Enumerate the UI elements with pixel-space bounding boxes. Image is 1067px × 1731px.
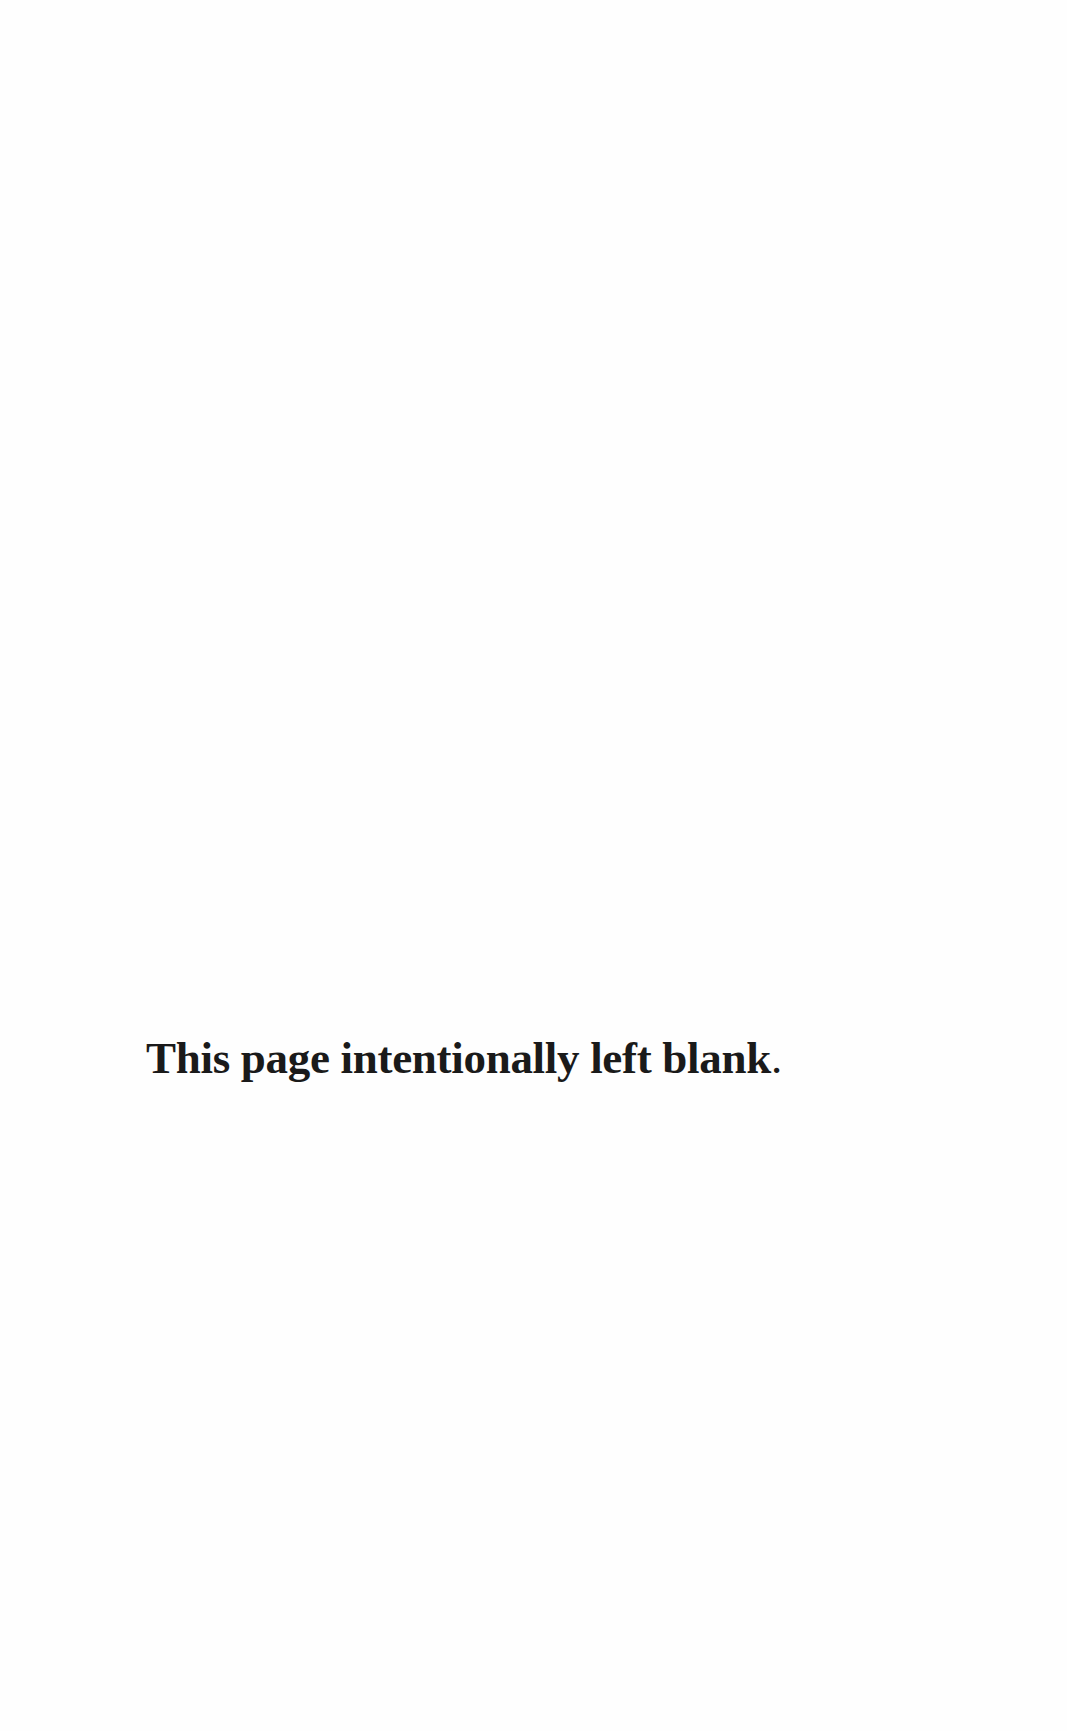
blank-page-notice-text: This page intentionally left blank: [146, 1033, 771, 1083]
blank-page: This page intentionally left blank.: [0, 0, 1067, 1731]
blank-page-notice: This page intentionally left blank.: [146, 1036, 782, 1081]
blank-page-notice-period: .: [771, 1033, 782, 1083]
